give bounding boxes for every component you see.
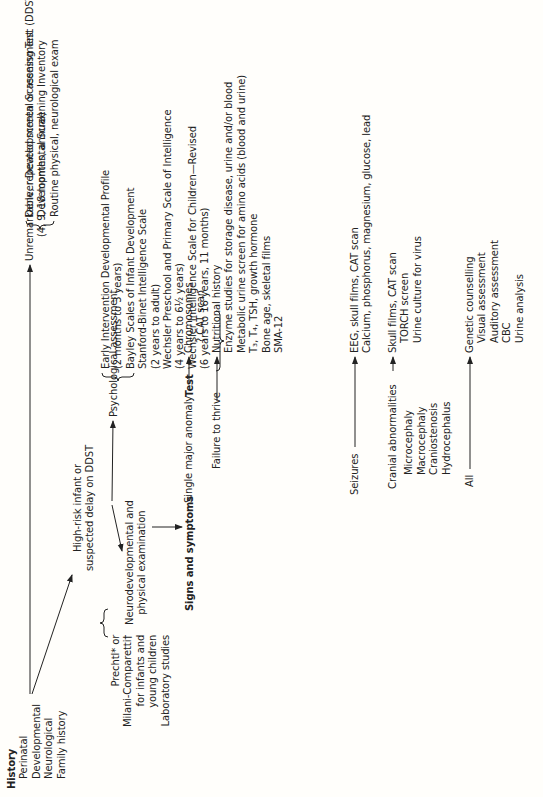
test-item: CBC	[501, 240, 513, 353]
neuro-exam-node: Neurodevelopmental and physical examinat…	[124, 500, 149, 625]
neuro-exam-text: physical examination	[136, 500, 148, 625]
test-item: Urine analysis	[514, 240, 526, 353]
developmental-assessment-flowchart: History Perinatal Developmental Neurolog…	[0, 0, 543, 797]
history-item: Developmental	[31, 704, 43, 789]
tests-failure-to-thrive: Nutritional history Enzyme studies for s…	[211, 75, 285, 353]
screening-test: Developmental Screening Inventory	[36, 0, 48, 217]
signs-heading: Signs and symptoms	[184, 496, 196, 611]
psych-test: (2 years to adult)	[150, 109, 162, 369]
test-item: Urine culture for virus	[412, 236, 424, 353]
test-item: Skull films, CAT scan	[387, 236, 399, 353]
exam-method: Laboratory studies	[160, 635, 172, 727]
test-item: Visual assessment	[476, 240, 488, 353]
sign-failure-to-thrive: Failure to thrive	[211, 392, 223, 469]
sign-cranial-abnormalities: Cranial abnormalities Microcephaly Macro…	[387, 384, 453, 489]
neuro-exam-text: Neurodevelopmental and	[124, 500, 136, 625]
tests-cranial-abnormalities: Skull films, CAT scan TORCH screen Urine…	[387, 236, 424, 353]
history-heading: History	[6, 704, 18, 789]
screening-test: Denver Developmental Screening Test (DDS…	[24, 0, 36, 217]
screening-test: Routine physical, neurological exam	[49, 0, 61, 217]
tests-single-major-anomaly: Chromosomes ? CAT scan	[183, 282, 208, 353]
test-item: TORCH screen	[399, 236, 411, 353]
test-item: Metabolic urine screen for amino acids (…	[236, 75, 248, 353]
test-item: Enzyme studies for storage disease, urin…	[223, 75, 235, 353]
sign-single-major-anomaly: Single major anomaly	[183, 396, 195, 503]
cranial-subtype: Craniostenosis	[428, 384, 440, 475]
test-item: ? CAT scan	[195, 282, 207, 353]
test-item: Nutritional history	[211, 75, 223, 353]
exam-method: Milani-Comparetti†	[122, 635, 134, 727]
cranial-subtype: Macrocephaly	[416, 384, 428, 475]
test-item: Bone age, skeletal films	[261, 75, 273, 353]
exam-methods-list: Prechtl* or Milani-Comparetti† for infan…	[110, 635, 172, 727]
test-item: Genetic counselling	[464, 240, 476, 353]
psych-test: Bayley Scales of Infant Development	[125, 109, 137, 369]
history-item: Perinatal	[18, 704, 30, 789]
test-item: Chromosomes	[183, 282, 195, 353]
psych-test: Stanford-Binet Intelligence Scale	[137, 109, 149, 369]
tests-seizures: EEG, skull films, CAT scan Calcium, phos…	[349, 115, 374, 353]
psych-test: Early Intervention Developmental Profile	[100, 109, 112, 369]
test-heading: Test	[184, 374, 196, 397]
test-item: Calcium, phosphorus, magnesium, glucose,…	[361, 115, 373, 353]
cranial-subtypes: Microcephaly Macrocephaly Craniostenosis…	[403, 384, 453, 489]
history-block: History Perinatal Developmental Neurolog…	[6, 704, 68, 789]
psych-test: (2 months to 3 years)	[112, 109, 124, 369]
test-item: EEG, skull films, CAT scan	[349, 115, 361, 353]
history-item: Neurological	[43, 704, 55, 789]
exam-method: Prechtl* or	[110, 635, 122, 727]
cranial-subtype: Hydrocephalus	[441, 384, 453, 475]
test-item: Auditory assessment	[489, 240, 501, 353]
exam-method: for infants and	[135, 635, 147, 727]
sign-label: Cranial abnormalities	[387, 384, 399, 489]
psych-test: Wechsler Preschool and Primary Scale of …	[162, 109, 174, 369]
test-item: SMA-12	[273, 75, 285, 353]
high-risk-text: suspected delay on DDST	[84, 445, 96, 571]
cranial-subtype: Microcephaly	[403, 384, 415, 475]
high-risk-text: High-risk infant or	[72, 445, 84, 571]
history-item: Family history	[56, 704, 68, 789]
sign-seizures: Seizures	[349, 454, 361, 495]
sign-all: All	[464, 475, 476, 487]
tests-all: Genetic counselling Visual assessment Au…	[464, 240, 526, 353]
screening-tests-list: Denver Developmental Screening Test (DDS…	[24, 0, 61, 217]
high-risk-node: High-risk infant or suspected delay on D…	[72, 445, 97, 571]
exam-method: young children	[147, 635, 159, 727]
test-item: T₃, T₄, TSH, growth hormone	[248, 75, 260, 353]
